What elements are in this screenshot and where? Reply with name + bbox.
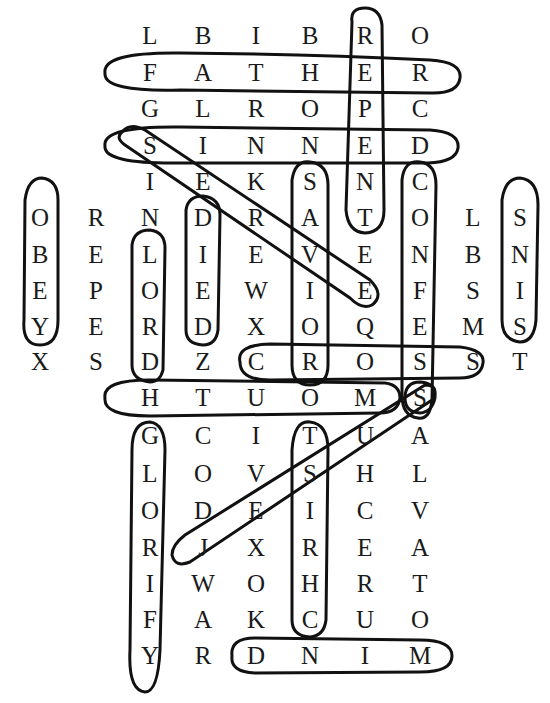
grid-letter: V [241, 459, 271, 489]
grid-letter: O [405, 203, 435, 233]
grid-letter: J [188, 533, 218, 563]
grid-letter: E [350, 131, 380, 161]
grid-letter: R [135, 533, 165, 563]
grid-letter: V [405, 496, 435, 526]
grid-letter: X [25, 347, 55, 377]
grid-letter: E [188, 276, 218, 306]
grid-letter: M [458, 312, 488, 342]
grid-letter: T [188, 383, 218, 413]
grid-letter: S [405, 383, 435, 413]
grid-letter: S [505, 203, 535, 233]
grid-letter: E [350, 240, 380, 270]
grid-letter: U [350, 605, 380, 635]
grid-letter: S [81, 347, 111, 377]
grid-letter: K [241, 167, 271, 197]
grid-letter: I [295, 496, 325, 526]
grid-letter: X [241, 533, 271, 563]
grid-letter: L [135, 459, 165, 489]
grid-letter: A [295, 203, 325, 233]
grid-letter: L [135, 21, 165, 51]
grid-letter: W [241, 276, 271, 306]
grid-letter: O [295, 383, 325, 413]
grid-letter: I [505, 276, 535, 306]
grid-letter: O [405, 21, 435, 51]
grid-letter: S [295, 167, 325, 197]
grid-letter: R [350, 21, 380, 51]
grid-letter: E [241, 496, 271, 526]
grid-letter: O [295, 312, 325, 342]
grid-letter: A [405, 421, 435, 451]
grid-letter: H [295, 58, 325, 88]
grid-letter: Z [188, 347, 218, 377]
grid-letter: I [241, 421, 271, 451]
grid-letter: B [25, 240, 55, 270]
grid-letter: P [81, 276, 111, 306]
grid-letter: I [295, 276, 325, 306]
grid-letter: E [350, 533, 380, 563]
grid-letter: C [295, 605, 325, 635]
grid-letter: X [241, 312, 271, 342]
grid-letter: R [241, 203, 271, 233]
grid-letter: R [81, 203, 111, 233]
grid-letter: C [405, 94, 435, 124]
grid-letter: O [25, 203, 55, 233]
grid-letter: V [295, 240, 325, 270]
grid-letter: M [350, 383, 380, 413]
grid-letter: E [405, 312, 435, 342]
grid-letter: E [188, 167, 218, 197]
grid-letter: E [25, 276, 55, 306]
grid-letter: T [505, 347, 535, 377]
grid-letter: N [350, 167, 380, 197]
grid-letter: U [350, 421, 380, 451]
grid-letter: D [188, 203, 218, 233]
grid-letter: I [188, 131, 218, 161]
grid-letter: C [241, 347, 271, 377]
grid-letter: D [241, 641, 271, 671]
grid-letter: S [135, 131, 165, 161]
grid-letter: R [188, 641, 218, 671]
grid-letter: Q [350, 312, 380, 342]
grid-letter: F [135, 605, 165, 635]
grid-letter: H [350, 459, 380, 489]
grid-letter: O [188, 459, 218, 489]
grid-letter: W [188, 569, 218, 599]
grid-letter: D [188, 312, 218, 342]
grid-letter: E [241, 240, 271, 270]
grid-letter: N [295, 131, 325, 161]
grid-letter: I [188, 240, 218, 270]
grid-letter: F [405, 276, 435, 306]
grid-letter: Y [135, 641, 165, 671]
grid-letter: T [350, 203, 380, 233]
grid-letter: R [295, 347, 325, 377]
grid-letter: F [135, 58, 165, 88]
grid-letter: E [350, 58, 380, 88]
grid-letter: R [350, 569, 380, 599]
grid-letter: H [295, 569, 325, 599]
grid-letter: L [188, 94, 218, 124]
grid-letter: L [405, 459, 435, 489]
grid-letter: Y [25, 312, 55, 342]
grid-letter: H [135, 383, 165, 413]
grid-letter: A [188, 58, 218, 88]
grid-letter: S [458, 347, 488, 377]
grid-letter: I [241, 21, 271, 51]
grid-letter: E [350, 276, 380, 306]
grid-letter: I [135, 569, 165, 599]
grid-letter: D [135, 347, 165, 377]
grid-letter: L [135, 240, 165, 270]
grid-letter: D [405, 131, 435, 161]
grid-letter: C [350, 496, 380, 526]
grid-letter: B [458, 240, 488, 270]
grid-letter: O [241, 569, 271, 599]
grid-letter: S [295, 459, 325, 489]
grid-letter: U [241, 383, 271, 413]
grid-letter: S [405, 347, 435, 377]
grid-letter: C [188, 421, 218, 451]
grid-letter: M [405, 641, 435, 671]
grid-letter: N [295, 641, 325, 671]
grid-letter: E [81, 312, 111, 342]
grid-letter: B [188, 21, 218, 51]
grid-letter: I [135, 167, 165, 197]
grid-letter: R [405, 58, 435, 88]
grid-letter: R [135, 312, 165, 342]
